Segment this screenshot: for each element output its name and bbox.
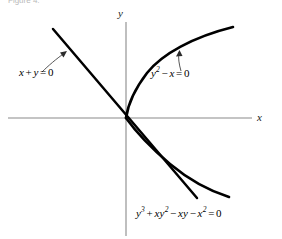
figure-container: Figure 4. y x x+y=0 y2−x=0 y3+xy2−xy−x2=… <box>0 0 282 239</box>
label-line-equation: x+y=0 <box>19 67 54 78</box>
label-parabola-equals: = <box>175 67 184 79</box>
label-line-lhs-y: y <box>34 66 39 78</box>
label-cubic-op2: − <box>169 207 178 219</box>
y-axis-label: y <box>118 8 123 19</box>
label-parabola-rhs: 0 <box>184 67 190 79</box>
label-cubic-equals: = <box>207 207 216 219</box>
leader-arrowhead-line-label <box>60 51 67 58</box>
label-cubic-op3: − <box>188 207 197 219</box>
curve-line-x-plus-y <box>53 29 197 198</box>
curve-cubic <box>126 118 229 197</box>
label-line-op-plus: + <box>24 66 33 78</box>
label-cubic-equation: y3+xy2−xy−x2=0 <box>136 208 222 219</box>
x-axis-label: x <box>257 112 262 123</box>
label-line-rhs: 0 <box>48 66 54 78</box>
label-parabola-equation: y2−x=0 <box>151 68 190 79</box>
label-parabola-var-x: x <box>169 67 174 79</box>
diagram-canvas <box>0 0 282 239</box>
label-cubic-term2-exponent: 2 <box>165 205 169 214</box>
label-cubic-rhs: 0 <box>216 207 222 219</box>
leader-arrowhead-parabola-label <box>176 50 183 57</box>
label-line-equals: = <box>39 66 48 78</box>
